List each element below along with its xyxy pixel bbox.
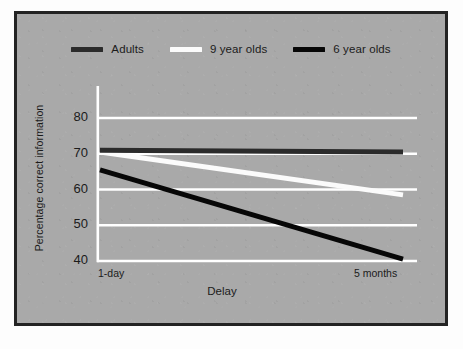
- y-tick-label-70: 70: [58, 145, 88, 160]
- chart-panel: Adults 9 year olds 6 year olds Percentag…: [14, 11, 448, 326]
- legend-label-nine-year-olds: 9 year olds: [210, 43, 267, 55]
- legend-item-nine-year-olds: 9 year olds: [170, 43, 267, 55]
- x-tick-label-1-day: 1-day: [98, 267, 124, 279]
- y-tick-label-50: 50: [58, 216, 88, 231]
- series-line-6-year-olds: [100, 170, 403, 259]
- y-tick-label-60: 60: [58, 181, 88, 196]
- legend-item-six-year-olds: 6 year olds: [293, 43, 390, 55]
- legend-item-adults: Adults: [71, 43, 144, 55]
- y-tick-label-40: 40: [58, 252, 88, 267]
- nine-year-olds-swatch: [170, 47, 202, 52]
- x-tick-label-5-months: 5 months: [354, 267, 397, 279]
- series-group: [100, 150, 403, 259]
- figure-root: Adults 9 year olds 6 year olds Percentag…: [0, 0, 463, 349]
- legend-label-adults: Adults: [111, 43, 144, 55]
- legend-label-six-year-olds: 6 year olds: [333, 43, 390, 55]
- chart-legend: Adults 9 year olds 6 year olds: [17, 43, 445, 55]
- adults-swatch: [71, 47, 103, 52]
- series-line-adults: [100, 150, 403, 152]
- y-axis-title: Percentage correct information: [33, 93, 45, 263]
- six-year-olds-swatch: [293, 47, 325, 52]
- x-axis-title: Delay: [17, 285, 427, 297]
- plot-area: Percentage correct information Delay 80 …: [17, 14, 445, 323]
- y-tick-label-80: 80: [58, 109, 88, 124]
